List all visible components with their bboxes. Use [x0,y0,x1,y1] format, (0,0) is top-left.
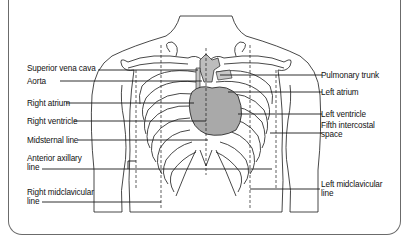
label-fifth-intercostal-space-2: space [321,130,375,139]
label-right-midclavicular-line-1: Right midclavicular [27,188,94,197]
label-fifth-intercostal-space: Fifth intercostal space [321,121,375,139]
label-fifth-intercostal-space-1: Fifth intercostal [321,121,375,130]
label-aorta: Aorta [27,77,46,86]
label-right-midclavicular-line: Right midclavicular line [27,188,94,206]
label-superior-vena-cava: Superior vena cava [27,64,96,73]
label-anterior-axillary-line-1: Anterior axillary [27,154,82,163]
label-anterior-axillary-line-2: line [27,163,82,172]
label-left-atrium: Left atrium [321,88,359,97]
heart-shape [189,87,241,136]
label-left-midclavicular-line: Left midclavicular line [321,180,382,198]
label-left-ventricle: Left ventricle [321,110,366,119]
vessel-shape [200,54,220,82]
label-left-midclavicular-line-2: line [321,189,382,198]
label-anterior-axillary-line: Anterior axillary line [27,154,82,172]
label-midsternal-line: Midsternal line [27,136,78,145]
label-left-midclavicular-line-1: Left midclavicular [321,180,382,189]
label-right-atrium: Right atrium [27,99,70,108]
label-pulmonary-trunk: Pulmonary trunk [321,71,379,80]
label-right-midclavicular-line-2: line [27,197,94,206]
label-right-ventricle: Right ventricle [27,117,77,126]
